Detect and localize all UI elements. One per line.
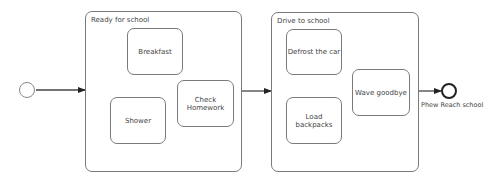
state-wave-goodbye[interactable]: Wave goodbye: [352, 69, 410, 116]
state-breakfast[interactable]: Breakfast: [127, 28, 183, 75]
state-label: Load backpacks: [296, 113, 333, 129]
state-label: Wave goodbye: [355, 89, 407, 97]
final-state-label: Phew Reach school: [421, 101, 483, 109]
state-diagram: Ready for school Breakfast Shower Check …: [0, 0, 495, 180]
state-label: Shower: [125, 117, 151, 125]
state-shower[interactable]: Shower: [110, 97, 166, 144]
state-label: Defrost the car: [288, 48, 341, 56]
state-load-backpacks[interactable]: Load backpacks: [286, 97, 342, 144]
state-label: Check Homework: [187, 96, 225, 112]
state-defrost-the-car[interactable]: Defrost the car: [286, 29, 342, 75]
initial-state[interactable]: [19, 82, 35, 98]
state-check-homework[interactable]: Check Homework: [177, 80, 234, 127]
final-state[interactable]: [441, 83, 457, 99]
composite-title: Drive to school: [277, 17, 330, 25]
transition-edges: [0, 0, 495, 180]
composite-title: Ready for school: [91, 16, 149, 24]
state-label: Breakfast: [138, 48, 171, 56]
